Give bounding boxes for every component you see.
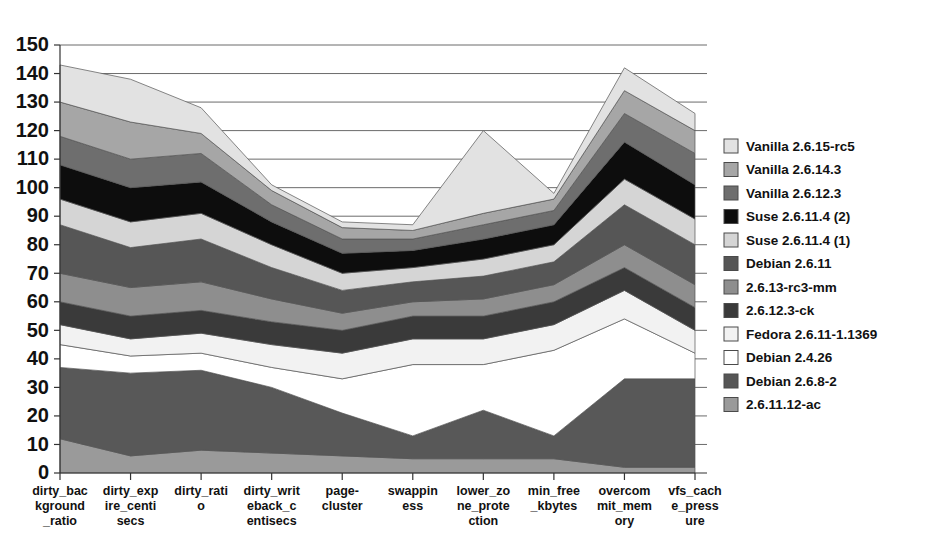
y-tick-label: 110 <box>17 147 49 169</box>
y-tick-label: 60 <box>27 290 49 312</box>
y-tick-label: 40 <box>27 347 49 369</box>
x-tick-label: dirty_ratio <box>174 484 228 513</box>
y-tick-label: 150 <box>16 33 49 55</box>
legend-label: Vanilla 2.6.14.3 <box>746 162 842 177</box>
x-tick-label: vfs_cache_pressure <box>668 484 722 528</box>
y-axis-tick-labels: 0102030405060708090100110120130140150 <box>16 33 49 483</box>
legend-label: 2.6.13-rc3-mm <box>746 280 837 295</box>
chart-legend: Vanilla 2.6.15-rc5Vanilla 2.6.14.3Vanill… <box>724 139 877 413</box>
legend-swatch <box>724 163 738 177</box>
legend-swatch <box>724 186 738 200</box>
legend-swatch <box>724 233 738 247</box>
y-tick-label: 130 <box>16 90 49 112</box>
y-tick-label: 70 <box>27 262 49 284</box>
legend-label: Debian 2.6.11 <box>746 256 832 271</box>
legend-swatch <box>724 398 738 412</box>
x-tick-label: dirty_background_ratio <box>32 484 88 528</box>
y-tick-label: 0 <box>38 461 49 483</box>
legend-label: Suse 2.6.11.4 (2) <box>746 209 850 224</box>
legend-label: 2.6.12.3-ck <box>746 303 815 318</box>
legend-label: Suse 2.6.11.4 (1) <box>746 233 850 248</box>
y-tick-label: 10 <box>27 433 49 455</box>
legend-label: 2.6.11.12-ac <box>746 397 822 412</box>
legend-swatch <box>724 327 738 341</box>
x-tick-label: lower_zone_protection <box>457 484 511 528</box>
area-bands <box>60 65 695 473</box>
y-tick-label: 90 <box>27 204 49 226</box>
y-tick-label: 80 <box>27 233 49 255</box>
legend-label: Fedora 2.6.11-1.1369 <box>746 327 877 342</box>
x-tick-label: dirty_expire_centisecs <box>103 484 159 528</box>
y-tick-label: 20 <box>27 404 49 426</box>
x-tick-label: min_free_kbytes <box>528 484 580 513</box>
legend-label: Debian 2.6.8-2 <box>746 374 837 389</box>
chart-container: 0102030405060708090100110120130140150 di… <box>0 0 925 550</box>
x-axis-tick-labels: dirty_background_ratiodirty_expire_centi… <box>32 484 722 528</box>
legend-swatch <box>724 351 738 365</box>
legend-label: Vanilla 2.6.12.3 <box>746 186 842 201</box>
legend-swatch <box>724 257 738 271</box>
legend-swatch <box>724 139 738 153</box>
y-tick-label: 30 <box>27 376 49 398</box>
legend-swatch <box>724 374 738 388</box>
x-tick-label: swappiness <box>388 484 438 513</box>
y-tick-label: 120 <box>16 119 49 141</box>
legend-swatch <box>724 210 738 224</box>
legend-label: Vanilla 2.6.15-rc5 <box>746 139 855 154</box>
x-tick-label: overcommit_memory <box>597 484 652 528</box>
y-tick-label: 140 <box>16 62 49 84</box>
x-tick-label: page-cluster <box>322 484 363 513</box>
stacked-area-chart: 0102030405060708090100110120130140150 di… <box>0 0 925 550</box>
y-tick-label: 50 <box>27 319 49 341</box>
y-tick-label: 100 <box>16 176 49 198</box>
legend-label: Debian 2.4.26 <box>746 350 833 365</box>
legend-swatch <box>724 280 738 294</box>
legend-swatch <box>724 304 738 318</box>
x-tick-label: dirty_writeback_centisecs <box>244 484 301 528</box>
